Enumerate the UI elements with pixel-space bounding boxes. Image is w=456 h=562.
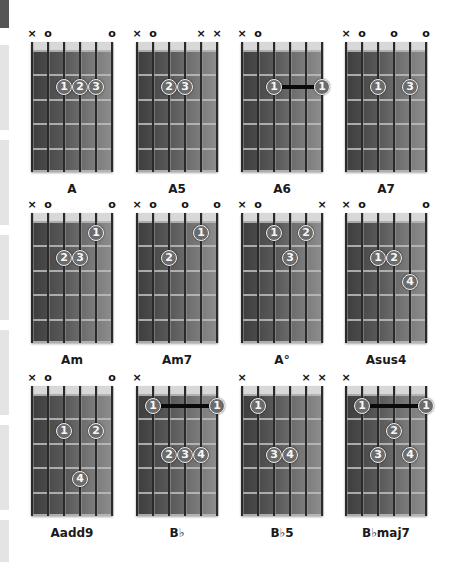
string-line bbox=[95, 386, 97, 516]
finger-dot: 4 bbox=[282, 447, 298, 463]
finger-dot: 2 bbox=[161, 79, 177, 95]
fret-line bbox=[136, 319, 218, 321]
string-line bbox=[31, 386, 33, 516]
side-tab bbox=[0, 330, 9, 415]
open-string-icon: o bbox=[421, 28, 431, 40]
fret-line bbox=[31, 294, 113, 296]
fret-line bbox=[136, 245, 218, 247]
string-line bbox=[63, 213, 65, 343]
string-line bbox=[377, 213, 379, 343]
nut bbox=[136, 213, 218, 221]
finger-dot: 3 bbox=[282, 250, 298, 266]
string-line bbox=[31, 213, 33, 343]
finger-dot: 3 bbox=[72, 250, 88, 266]
string-line bbox=[425, 213, 427, 343]
fret-line bbox=[136, 467, 218, 469]
string-line bbox=[184, 213, 186, 343]
string-line bbox=[136, 213, 138, 343]
fret-line bbox=[241, 319, 323, 321]
string-line bbox=[241, 42, 243, 172]
string-line bbox=[136, 386, 138, 516]
string-line bbox=[377, 42, 379, 172]
chord-name: B♭ bbox=[136, 526, 218, 540]
fret-line bbox=[136, 148, 218, 150]
fret-line bbox=[345, 319, 427, 321]
finger-dot: 1 bbox=[418, 398, 434, 414]
fret-line bbox=[136, 99, 218, 101]
muted-string-icon: × bbox=[196, 28, 206, 40]
fret-line bbox=[136, 341, 218, 343]
fret-line bbox=[31, 492, 113, 494]
muted-string-icon: × bbox=[132, 372, 142, 384]
fret-line bbox=[241, 221, 323, 223]
finger-dot: 2 bbox=[56, 250, 72, 266]
chord-diagram: ×oo124Aadd9 bbox=[25, 370, 129, 540]
fret-line bbox=[31, 74, 113, 76]
fret-line bbox=[31, 170, 113, 172]
nut bbox=[241, 386, 323, 394]
open-string-icon: o bbox=[357, 199, 367, 211]
chord-diagram: ×ooo13A7 bbox=[339, 26, 443, 196]
fret-line bbox=[136, 294, 218, 296]
string-line bbox=[361, 42, 363, 172]
fret-line bbox=[241, 148, 323, 150]
string-line bbox=[257, 213, 259, 343]
muted-string-icon: × bbox=[341, 199, 351, 211]
fret-line bbox=[136, 418, 218, 420]
string-line bbox=[168, 42, 170, 172]
muted-string-icon: × bbox=[317, 372, 327, 384]
muted-string-icon: × bbox=[132, 199, 142, 211]
fret-line bbox=[31, 50, 113, 52]
fretboard bbox=[241, 42, 323, 172]
fret-line bbox=[241, 245, 323, 247]
fret-line bbox=[31, 443, 113, 445]
fret-line bbox=[31, 270, 113, 272]
fret-line bbox=[241, 123, 323, 125]
string-line bbox=[47, 386, 49, 516]
muted-string-icon: × bbox=[341, 372, 351, 384]
string-line bbox=[200, 42, 202, 172]
fret-line bbox=[345, 123, 427, 125]
fretboard bbox=[31, 42, 113, 172]
fret-line bbox=[136, 443, 218, 445]
string-line bbox=[216, 213, 218, 343]
fretboard bbox=[136, 42, 218, 172]
chord-diagram: ×o11A6 bbox=[235, 26, 339, 196]
finger-dot: 3 bbox=[177, 447, 193, 463]
side-tab bbox=[0, 520, 9, 562]
fret-line bbox=[241, 270, 323, 272]
string-line bbox=[136, 42, 138, 172]
chord-name: Aadd9 bbox=[31, 526, 113, 540]
chord-name: A5 bbox=[136, 182, 218, 196]
chord-name: Asus4 bbox=[345, 353, 427, 367]
string-line bbox=[63, 386, 65, 516]
string-line bbox=[305, 42, 307, 172]
fret-line bbox=[31, 467, 113, 469]
open-string-icon: o bbox=[253, 199, 263, 211]
muted-string-icon: × bbox=[237, 372, 247, 384]
fret-line bbox=[136, 270, 218, 272]
string-line bbox=[425, 42, 427, 172]
fret-line bbox=[136, 123, 218, 125]
string-line bbox=[321, 386, 323, 516]
fret-line bbox=[31, 221, 113, 223]
chord-diagram: ×oo123Am bbox=[25, 197, 129, 367]
string-line bbox=[111, 386, 113, 516]
string-line bbox=[79, 386, 81, 516]
side-tab bbox=[0, 235, 9, 320]
string-line bbox=[305, 386, 307, 516]
chord-diagram: ×11234B♭ bbox=[130, 370, 234, 540]
fret-line bbox=[136, 221, 218, 223]
muted-string-icon: × bbox=[212, 28, 222, 40]
fret-line bbox=[136, 514, 218, 516]
string-line bbox=[111, 213, 113, 343]
fret-line bbox=[345, 170, 427, 172]
string-line bbox=[361, 213, 363, 343]
fret-line bbox=[345, 270, 427, 272]
string-line bbox=[47, 213, 49, 343]
chord-name: Am7 bbox=[136, 353, 218, 367]
string-line bbox=[216, 42, 218, 172]
muted-string-icon: × bbox=[27, 199, 37, 211]
fretboard bbox=[31, 386, 113, 516]
muted-string-icon: × bbox=[27, 372, 37, 384]
